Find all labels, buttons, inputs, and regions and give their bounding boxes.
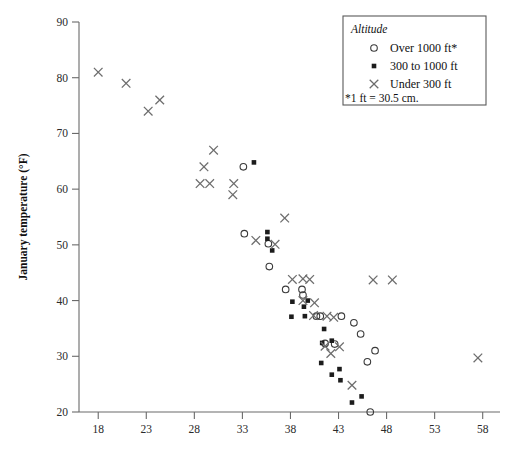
point-circle-marker — [282, 286, 289, 293]
x-tick-label: 28 — [189, 423, 201, 435]
point-square-marker — [319, 361, 324, 366]
legend-1-square-marker — [372, 64, 377, 69]
point-circle-marker — [338, 313, 345, 320]
point-square-marker — [329, 372, 334, 377]
point-cross-marker — [205, 179, 214, 188]
y-tick-label: 70 — [57, 127, 69, 139]
point-cross-marker — [229, 179, 238, 188]
y-tick-label: 50 — [57, 239, 69, 251]
x-tick-label: 53 — [429, 423, 441, 435]
point-cross-marker — [388, 276, 397, 285]
point-square-marker — [289, 314, 294, 319]
point-cross-marker — [280, 214, 289, 223]
series-0 — [240, 164, 378, 416]
point-circle-marker — [364, 359, 371, 366]
y-tick-label: 30 — [57, 350, 69, 362]
legend-title-text: Altitude — [350, 23, 387, 35]
point-cross-marker — [329, 313, 338, 322]
point-cross-marker — [288, 275, 297, 284]
point-cross-marker — [196, 179, 205, 188]
point-cross-marker — [310, 299, 319, 308]
plot-canvas: 2030405060708090182328333843485358 Janua… — [0, 0, 515, 459]
point-cross-marker — [305, 275, 314, 284]
legend: AltitudeOver 1000 ft*300 to 1000 ftUnder… — [343, 16, 486, 105]
point-cross-marker — [474, 354, 483, 363]
point-square-marker — [322, 327, 327, 332]
y-tick-label: 20 — [57, 406, 69, 418]
x-tick-label: 48 — [381, 423, 393, 435]
legend-note-text: *1 ft = 30.5 cm. — [345, 92, 419, 104]
y-tick-label: 90 — [57, 16, 69, 28]
point-cross-marker — [228, 190, 237, 199]
point-circle-marker — [372, 347, 379, 354]
point-square-marker — [305, 298, 310, 303]
x-tick-label: 18 — [92, 423, 104, 435]
point-cross-marker — [155, 96, 164, 105]
x-tick-label: 58 — [477, 423, 489, 435]
point-cross-marker — [200, 163, 209, 172]
point-cross-marker — [252, 236, 261, 245]
point-square-marker — [265, 230, 270, 235]
point-square-marker — [329, 338, 334, 343]
data-points — [94, 68, 482, 415]
point-square-marker — [302, 304, 307, 309]
point-square-marker — [303, 314, 308, 319]
y-tick-label: 60 — [57, 183, 69, 195]
point-square-marker — [359, 394, 364, 399]
x-tick-label: 38 — [285, 423, 297, 435]
series-2 — [94, 68, 482, 390]
legend-entry-label: Under 300 ft — [390, 77, 452, 91]
scatter-chart: 2030405060708090182328333843485358 Janua… — [0, 0, 515, 459]
x-tick-label: 23 — [141, 423, 153, 435]
point-square-marker — [337, 367, 342, 372]
point-circle-marker — [240, 164, 247, 171]
y-axis-title-text: January temperature (°F) — [17, 153, 30, 280]
series-1 — [252, 160, 364, 405]
legend-entry-label: Over 1000 ft* — [390, 41, 457, 55]
point-cross-marker — [122, 79, 131, 88]
point-cross-marker — [144, 107, 153, 116]
point-square-marker — [290, 299, 295, 304]
point-square-marker — [270, 248, 275, 253]
point-cross-marker — [327, 349, 336, 358]
point-square-marker — [252, 160, 257, 165]
point-square-marker — [338, 378, 343, 383]
y-axis-title: January temperature (°F) — [17, 153, 30, 280]
point-circle-marker — [357, 331, 364, 338]
point-cross-marker — [94, 68, 103, 77]
y-tick-label: 40 — [57, 295, 69, 307]
point-circle-marker — [241, 230, 248, 237]
point-circle-marker — [265, 240, 272, 247]
point-circle-marker — [351, 320, 358, 327]
point-cross-marker — [348, 381, 357, 390]
y-tick-label: 80 — [57, 72, 69, 84]
point-cross-marker — [369, 276, 378, 285]
x-tick-label: 43 — [333, 423, 345, 435]
legend-entry-label: 300 to 1000 ft — [390, 59, 458, 73]
x-tick-label: 33 — [237, 423, 249, 435]
point-square-marker — [350, 400, 355, 405]
point-cross-marker — [321, 342, 330, 351]
point-circle-marker — [266, 263, 273, 270]
point-cross-marker — [209, 146, 218, 155]
point-square-marker — [265, 236, 270, 241]
